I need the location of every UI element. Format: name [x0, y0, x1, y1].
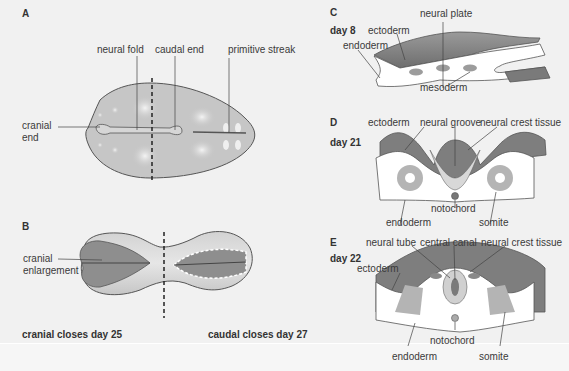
label-ectoderm-e: ectoderm	[357, 263, 399, 274]
panel-c-day: day 8	[330, 25, 356, 36]
panel-e-letter: E	[330, 237, 337, 248]
label-endoderm-d: endoderm	[386, 217, 431, 228]
label-neural-crest-tissue-e: neural crest tissue	[481, 237, 562, 248]
panel-b-letter: B	[22, 221, 29, 232]
label-mesoderm: mesoderm	[420, 82, 467, 93]
label-somite-e: somite	[479, 351, 508, 362]
label-endoderm-c: endoderm	[343, 40, 388, 51]
label-ectoderm-d: ectoderm	[368, 117, 410, 128]
label-notochord-d: notochord	[431, 203, 475, 214]
label-notochord-e: notochord	[430, 335, 474, 346]
label-ectoderm-c: ectoderm	[368, 25, 410, 36]
panel-d-letter: D	[330, 117, 337, 128]
label-cranial-enlargement-line1: cranial	[23, 253, 52, 264]
caudal-closes-caption: caudal closes day 27	[208, 329, 308, 340]
label-neural-tube: neural tube	[366, 237, 416, 248]
label-cranial-end-line2: end	[22, 132, 39, 143]
panel-b-embryo	[58, 232, 252, 318]
panel-e-tube	[376, 242, 545, 346]
panel-c-letter: C	[330, 7, 337, 18]
label-neural-plate: neural plate	[420, 8, 472, 19]
panel-d-day: day 21	[330, 137, 361, 148]
panel-a-embryo	[58, 56, 255, 182]
label-endoderm-e: endoderm	[392, 351, 437, 362]
label-neural-crest-tissue-d: neural crest tissue	[480, 117, 561, 128]
label-caudal-end: caudal end	[155, 44, 204, 55]
cranial-closes-caption: cranial closes day 25	[22, 329, 122, 340]
label-cranial-end-line1: cranial	[22, 120, 51, 131]
label-somite-d: somite	[479, 217, 508, 228]
label-primitive-streak: primitive streak	[228, 44, 295, 55]
label-neural-groove: neural groove	[420, 117, 481, 128]
label-central-canal: central canal	[420, 237, 477, 248]
label-cranial-enlargement-line2: enlargement	[23, 265, 79, 276]
label-neural-fold: neural fold	[97, 44, 144, 55]
panel-a-letter: A	[22, 8, 29, 19]
